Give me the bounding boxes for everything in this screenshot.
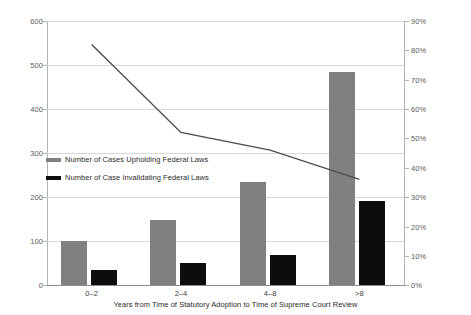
y-axis-right: 90% 80% 70% 60% 50% 40% 30% 20% 10% 0% [411,0,467,315]
y-axis-right-tick-mark [405,80,409,81]
plot-area [47,21,404,285]
y-axis-right-tick-mark [405,109,409,110]
y-axis-left-tick: 600 [30,17,43,26]
y-axis-left: 600 500 400 300 200 100 0 [0,0,43,315]
y-axis-right-tick: 70% [411,76,426,85]
x-axis-tick-1: 2–4 [175,289,188,298]
y-axis-right-tick: 0% [411,281,422,290]
y-axis-right-tick: 90% [411,17,426,26]
y-axis-left-tick: 300 [30,149,43,158]
y-axis-right-tick-mark [405,227,409,228]
y-axis-right-tick: 60% [411,105,426,114]
legend-swatch-icon [46,176,61,180]
y-axis-right-tick-mark [405,50,409,51]
y-axis-right-tick-mark [405,138,409,139]
y-axis-right-tick-mark [405,168,409,169]
x-axis-tick-2: 4–8 [264,289,277,298]
y-axis-left-tick: 400 [30,105,43,114]
axis-line-right [404,21,405,286]
y-axis-left-tick: 500 [30,61,43,70]
y-axis-right-tick-mark [405,285,409,286]
x-axis-tick-3: >8 [355,289,364,298]
y-axis-right-tick-mark [405,197,409,198]
y-axis-right-tick: 30% [411,193,426,202]
legend: Number of Cases Upholding Federal Laws N… [46,155,209,182]
line-series-percent [47,21,404,285]
legend-label: Number of Cases Upholding Federal Laws [65,155,208,164]
x-axis-tick-0: 0–2 [85,289,98,298]
y-axis-right-tick: 50% [411,134,426,143]
y-axis-right-tick: 80% [411,46,426,55]
x-axis-title: Years from Time of Statutory Adoption to… [0,300,471,309]
legend-label: Number of Case Invalidating Federal Laws [65,173,209,182]
y-axis-right-tick: 40% [411,164,426,173]
chart-container: 600 500 400 300 200 100 0 90% 80% 70% 60… [0,0,471,315]
y-axis-right-tick: 20% [411,223,426,232]
y-axis-right-tick-mark [405,21,409,22]
y-axis-left-tick: 200 [30,193,43,202]
legend-swatch-icon [46,158,61,162]
y-axis-right-tick-mark [405,256,409,257]
y-axis-right-tick: 10% [411,252,426,261]
legend-item-upholding: Number of Cases Upholding Federal Laws [46,155,209,164]
legend-item-invalidating: Number of Case Invalidating Federal Laws [46,173,209,182]
axis-line-bottom [47,285,405,286]
y-axis-left-tick: 100 [30,237,43,246]
